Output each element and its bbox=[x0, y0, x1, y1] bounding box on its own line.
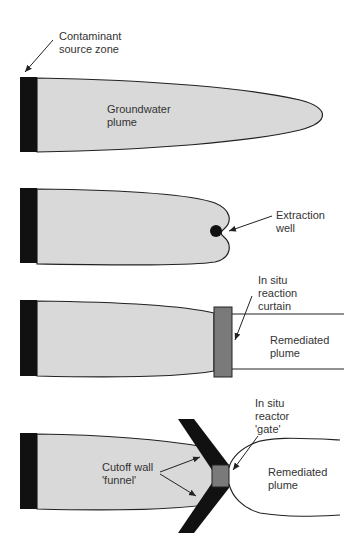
label-groundwater-plume: Groundwater plume bbox=[107, 103, 171, 129]
label-reactor-gate: In situ reactor 'gate' bbox=[255, 397, 289, 436]
reactor-gate bbox=[212, 465, 229, 487]
source-arrow bbox=[25, 40, 53, 72]
contaminant-source-zone bbox=[20, 300, 37, 376]
label-reaction-curtain: In situ reaction curtain bbox=[258, 274, 297, 313]
curtain-arrow bbox=[235, 296, 252, 340]
panel-natural-plume bbox=[20, 40, 323, 152]
label-extraction-well: Extraction well bbox=[276, 209, 325, 235]
label-remediated-plume: Remediated plume bbox=[268, 466, 327, 492]
extraction-well bbox=[210, 225, 222, 237]
reaction-curtain bbox=[214, 307, 232, 377]
groundwater-plume bbox=[37, 301, 214, 377]
well-arrow bbox=[229, 216, 272, 231]
gate-arrow bbox=[233, 436, 258, 470]
contaminant-source-zone bbox=[20, 188, 37, 263]
groundwater-plume bbox=[37, 78, 323, 152]
label-contaminant-source-zone: Contaminant source zone bbox=[59, 30, 121, 56]
panel-extraction-well bbox=[20, 188, 272, 265]
contaminant-source-zone bbox=[20, 77, 37, 152]
contaminant-source-zone bbox=[20, 433, 37, 509]
label-remediated-plume: Remediated plume bbox=[270, 334, 329, 360]
label-cutoff-wall-funnel: Cutoff wall 'funnel' bbox=[102, 461, 153, 487]
captured-plume bbox=[37, 189, 229, 265]
